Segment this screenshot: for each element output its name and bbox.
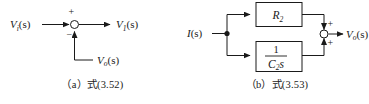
lower-branch-line-b	[227, 34, 250, 56]
block-diagram-a: Vi(s) + − V1(s)	[0, 0, 185, 78]
sign-plus-bottom-b: +	[328, 37, 334, 48]
sign-minus-a: −	[67, 29, 73, 40]
figure-root: Vi(s) + − V1(s)	[0, 0, 369, 104]
sign-plus-top-b: +	[328, 18, 334, 29]
diagram-b-canvas: I(s) R2 1 C2s	[185, 0, 369, 78]
top-block-output-line-b	[302, 15, 324, 30]
block-diagram-b: I(s) R2 1 C2s	[185, 0, 369, 78]
bottom-block-output-line-b	[302, 39, 324, 56]
block-capacitor-numerator: 1	[273, 44, 278, 55]
panel-a: Vi(s) + − V1(s)	[0, 0, 185, 104]
panel-b: I(s) R2 1 C2s	[185, 0, 369, 104]
summing-junction-a	[71, 21, 79, 29]
output-label-b: Vo(s)	[346, 28, 368, 43]
output-label-a: V1(s)	[116, 18, 138, 33]
sign-plus-a: +	[69, 6, 75, 17]
input-label-a: Vi(s)	[10, 18, 31, 33]
input-label-b: I(s)	[186, 27, 203, 40]
upper-branch-line-b	[227, 15, 250, 34]
diagram-a-canvas: Vi(s) + − V1(s)	[0, 0, 185, 78]
caption-a: （a）式(3.52)	[0, 76, 185, 91]
feedback-label-a: Vo(s)	[97, 54, 119, 69]
caption-b: （b）式(3.53)	[185, 76, 369, 91]
